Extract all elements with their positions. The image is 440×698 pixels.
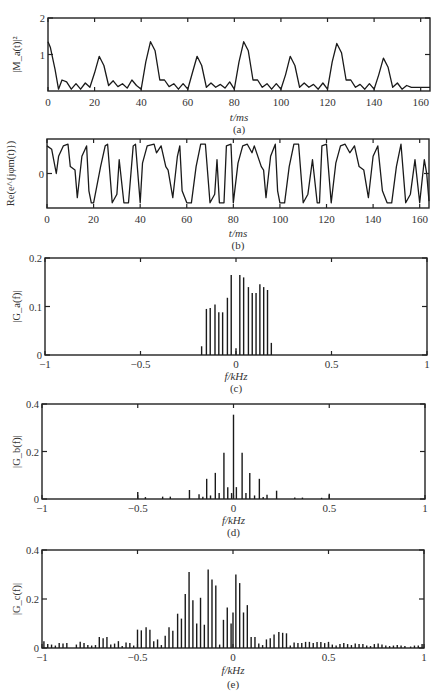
x-tick-label: 160 — [411, 213, 428, 225]
x-tick-label: 1 — [424, 358, 430, 370]
y-tick-label: 2 — [40, 13, 45, 24]
panel-caption: (a) — [233, 123, 246, 136]
x-tick-label: 60 — [182, 96, 194, 108]
x-tick-label: −0.5 — [128, 651, 148, 663]
panel-e-bar-chart: −1−0.500.5100.20.4f/kHz|G_c(f)|(e) — [11, 545, 427, 691]
x-tick-label: −0.5 — [131, 358, 151, 370]
panel-caption: (d) — [227, 526, 240, 539]
x-axis-label: t/ms — [229, 227, 247, 239]
panel-b-line-chart: 0204060801001201401600t/msRe(e^{jφm(t)})… — [5, 139, 429, 252]
y-tick-label: 0.2 — [26, 447, 39, 458]
panel-a-line-chart: 02040608010012014016012t/ms|M_a(t)|²(a) — [11, 13, 430, 136]
plot-frame — [48, 18, 430, 91]
x-tick-label: 100 — [273, 96, 290, 108]
x-tick-label: 0.5 — [322, 502, 336, 514]
x-tick-label: 0 — [231, 502, 237, 514]
x-tick-label: 0 — [233, 358, 239, 370]
y-tick-label: 0 — [34, 494, 39, 505]
panel-d-bar-chart: −1−0.500.5100.20.4f/kHz|G_b(f)|(d) — [11, 399, 428, 539]
y-axis-label: |G_a(f)| — [11, 290, 23, 322]
y-axis-label: Re(e^{jφm(t)}) — [5, 140, 17, 206]
x-tick-label: 160 — [412, 96, 429, 108]
x-tick-label: 40 — [136, 96, 148, 108]
x-tick-label: 40 — [135, 213, 147, 225]
panel-caption: (b) — [232, 239, 245, 252]
plot-frame — [45, 258, 427, 355]
x-tick-label: 140 — [366, 96, 383, 108]
panel-caption: (c) — [230, 382, 243, 395]
y-tick-label: 1 — [40, 50, 45, 61]
x-tick-label: 0 — [45, 96, 51, 108]
x-tick-label: 60 — [181, 213, 193, 225]
y-tick-label: 0 — [39, 169, 44, 180]
figure: 02040608010012014016012t/ms|M_a(t)|²(a) … — [0, 0, 440, 698]
y-tick-label: 0.4 — [26, 399, 40, 410]
x-tick-label: 0.5 — [322, 651, 336, 663]
x-tick-label: 0 — [230, 651, 236, 663]
x-tick-label: 140 — [365, 213, 382, 225]
y-axis-label: |G_c(f)| — [11, 583, 23, 615]
data-line — [48, 42, 430, 89]
x-tick-label: 120 — [319, 96, 336, 108]
x-tick-label: −0.5 — [128, 502, 148, 514]
y-tick-label: 0.1 — [29, 302, 42, 313]
x-axis-label: f/kHz — [222, 514, 246, 526]
x-axis-label: f/kHz — [224, 370, 248, 382]
x-tick-label: 20 — [88, 213, 100, 225]
x-tick-label: 100 — [272, 213, 289, 225]
x-tick-label: 1 — [421, 651, 427, 663]
y-axis-label: |G_b(f)| — [11, 435, 23, 468]
x-tick-label: 0 — [44, 213, 50, 225]
x-tick-label: 1 — [422, 502, 428, 514]
y-tick-label: 0.2 — [26, 594, 39, 605]
x-axis-label: f/kHz — [221, 664, 245, 676]
y-tick-label: 0 — [34, 643, 39, 654]
panel-c-bar-chart: −1−0.500.5100.10.2f/kHz|G_a(f)|(c) — [11, 253, 430, 395]
x-tick-label: 80 — [228, 213, 240, 225]
x-tick-label: 0.5 — [325, 358, 339, 370]
panel-caption: (e) — [227, 678, 240, 691]
y-tick-label: 0 — [37, 350, 42, 361]
x-tick-label: 80 — [229, 96, 241, 108]
y-axis-label: |M_a(t)|² — [11, 36, 23, 73]
x-axis-label: t/ms — [230, 111, 248, 123]
y-tick-label: 0.4 — [26, 545, 40, 556]
x-tick-label: 120 — [318, 213, 335, 225]
data-line — [47, 144, 429, 203]
y-tick-label: 0.2 — [29, 253, 42, 264]
x-tick-label: 20 — [89, 96, 101, 108]
